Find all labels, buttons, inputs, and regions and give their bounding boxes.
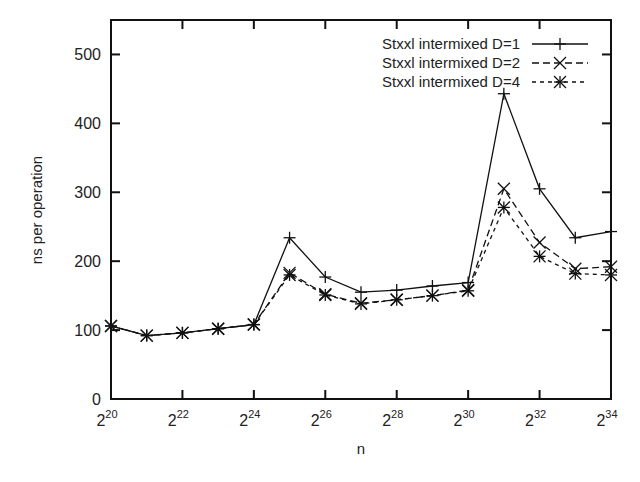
x-tick-label: 230 — [454, 408, 475, 429]
asterisk-marker — [391, 294, 403, 306]
legend-label: Stxxl intermixed D=2 — [382, 54, 520, 71]
plus-marker — [554, 38, 566, 50]
x-tick-label: 228 — [382, 408, 403, 429]
x-tick-label: 220 — [96, 408, 117, 429]
plus-marker — [355, 286, 367, 298]
series-line — [111, 189, 611, 336]
y-tick-label: 300 — [74, 184, 101, 201]
x-tick-label: 224 — [239, 408, 260, 429]
series-3 — [105, 201, 617, 341]
asterisk-marker — [355, 298, 367, 310]
legend-entry: Stxxl intermixed D=2 — [382, 54, 588, 71]
x-marker — [534, 237, 546, 249]
x-tick-label: 226 — [311, 408, 332, 429]
asterisk-marker — [462, 285, 474, 297]
x-tick-label: 222 — [168, 408, 189, 429]
asterisk-marker — [554, 76, 566, 88]
asterisk-marker — [569, 268, 581, 280]
x-marker — [498, 183, 510, 195]
y-tick-label: 500 — [74, 46, 101, 63]
x-tick-label: 234 — [596, 408, 617, 429]
legend: Stxxl intermixed D=1Stxxl intermixed D=2… — [382, 35, 588, 90]
y-tick-label: 200 — [74, 253, 101, 270]
plot-area — [105, 88, 617, 342]
y-tick-label: 0 — [92, 391, 101, 408]
y-axis-title: ns per operation — [28, 156, 45, 264]
axes: 0100200300400500220222224226228230232234 — [74, 20, 617, 429]
asterisk-marker — [141, 330, 153, 342]
asterisk-marker — [176, 327, 188, 339]
asterisk-marker — [534, 250, 546, 262]
plus-marker — [534, 183, 546, 195]
y-tick-label: 400 — [74, 115, 101, 132]
x-tick-label: 232 — [525, 408, 546, 429]
asterisk-marker — [319, 289, 331, 301]
asterisk-marker — [284, 269, 296, 281]
legend-label: Stxxl intermixed D=1 — [382, 35, 520, 52]
line-chart: 0100200300400500220222224226228230232234… — [0, 0, 640, 482]
series-line — [111, 207, 611, 335]
plot-frame — [111, 20, 611, 399]
legend-entry: Stxxl intermixed D=1 — [382, 35, 588, 52]
asterisk-marker — [212, 323, 224, 335]
x-axis-title: n — [357, 440, 365, 457]
asterisk-marker — [426, 290, 438, 302]
plus-marker — [569, 232, 581, 244]
y-tick-label: 100 — [74, 322, 101, 339]
asterisk-marker — [498, 201, 510, 213]
legend-entry: Stxxl intermixed D=4 — [382, 73, 588, 90]
asterisk-marker — [248, 319, 260, 331]
legend-label: Stxxl intermixed D=4 — [382, 73, 520, 90]
